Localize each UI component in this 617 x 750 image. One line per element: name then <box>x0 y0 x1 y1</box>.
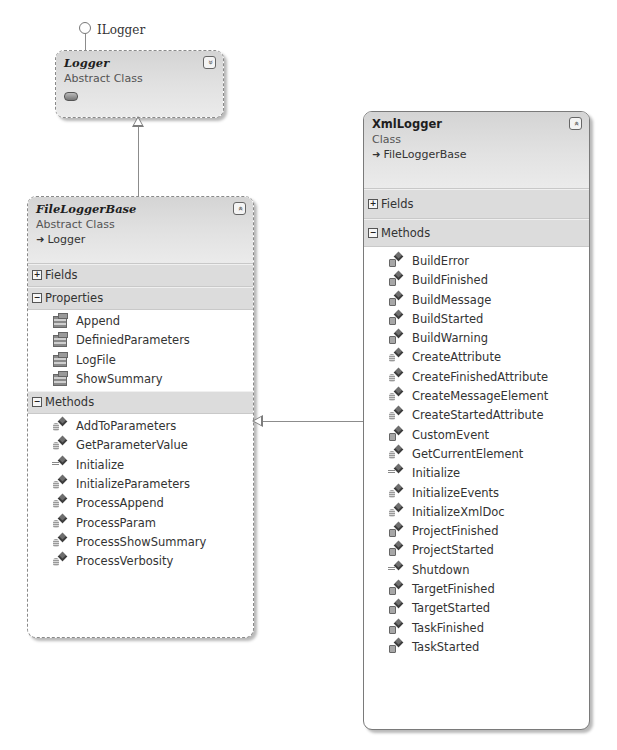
method-item[interactable]: ProjectStarted <box>364 541 589 560</box>
private-method-icon <box>52 515 68 529</box>
protected-method-icon <box>388 272 404 286</box>
method-item[interactable]: AddToParameters <box>28 417 253 436</box>
private-method-icon <box>52 437 68 451</box>
protected-method-icon <box>388 292 404 306</box>
method-item[interactable]: GetCurrentElement <box>364 445 589 464</box>
section-fields[interactable]: +Fields <box>364 189 589 219</box>
interface-label: ILogger <box>97 23 145 37</box>
private-method-icon <box>388 485 404 499</box>
inheritance-connector <box>138 127 139 196</box>
class-name: FileLoggerBase <box>36 201 245 217</box>
method-item[interactable]: Initialize <box>28 456 253 475</box>
method-item[interactable]: TaskStarted <box>364 638 589 657</box>
method-item[interactable]: Shutdown <box>364 561 589 580</box>
private-method-icon <box>388 369 404 383</box>
section-label: Fields <box>381 197 414 211</box>
method-item[interactable]: CreateAttribute <box>364 348 589 367</box>
class-kind: Abstract Class <box>64 71 215 86</box>
method-item[interactable]: CreateStartedAttribute <box>364 406 589 425</box>
class-name: XmlLogger <box>372 116 581 132</box>
section-methods[interactable]: −Methods <box>364 219 589 247</box>
class-kind: Class <box>372 132 581 147</box>
method-item[interactable]: CustomEvent <box>364 426 589 445</box>
private-method-icon <box>52 553 68 567</box>
protected-method-icon <box>388 600 404 614</box>
class-xml-logger[interactable]: XmlLogger Class ➜FileLoggerBase « +Field… <box>363 111 590 730</box>
method-item[interactable]: TargetFinished <box>364 580 589 599</box>
protected-method-icon <box>388 253 404 267</box>
private-method-icon <box>52 495 68 509</box>
property-item[interactable]: DefiniedParameters <box>28 331 253 350</box>
method-item[interactable]: BuildWarning <box>364 329 589 348</box>
protected-method-icon <box>388 311 404 325</box>
protected-method-icon <box>388 639 404 653</box>
method-item[interactable]: BuildMessage <box>364 291 589 310</box>
method-item[interactable]: GetParameterValue <box>28 436 253 455</box>
private-method-icon <box>388 407 404 421</box>
private-method-icon <box>388 388 404 402</box>
protected-method-icon <box>388 542 404 556</box>
section-fields[interactable]: +Fields <box>28 264 253 287</box>
base-class: ➜Logger <box>36 232 245 248</box>
interface-connector <box>85 34 86 51</box>
method-item[interactable]: InitializeParameters <box>28 475 253 494</box>
public-method-icon <box>52 457 68 471</box>
inherits-arrow-icon: ➜ <box>36 234 44 245</box>
section-label: Fields <box>45 268 78 282</box>
method-item[interactable]: CreateMessageElement <box>364 387 589 406</box>
collapse-toggle-icon[interactable]: « <box>569 117 582 130</box>
method-item[interactable]: ProcessShowSummary <box>28 533 253 552</box>
method-item[interactable]: BuildError <box>364 252 589 271</box>
section-properties[interactable]: −Properties <box>28 287 253 310</box>
property-icon <box>52 371 68 385</box>
base-class-name: Logger <box>47 233 85 246</box>
method-item[interactable]: ProcessParam <box>28 514 253 533</box>
method-item[interactable]: ProcessAppend <box>28 494 253 513</box>
protected-method-icon <box>388 581 404 595</box>
public-method-icon <box>388 562 404 576</box>
section-label: Methods <box>381 226 430 240</box>
property-icon <box>52 313 68 327</box>
inherits-arrow-icon: ➜ <box>372 149 380 160</box>
collapse-section-icon[interactable]: − <box>368 228 378 238</box>
private-method-icon <box>388 446 404 460</box>
expand-section-icon[interactable]: + <box>368 199 378 209</box>
method-item[interactable]: CreateFinishedAttribute <box>364 368 589 387</box>
inheritance-arrow-icon <box>252 415 263 427</box>
method-item[interactable]: InitializeXmlDoc <box>364 503 589 522</box>
method-item[interactable]: ProcessVerbosity <box>28 552 253 571</box>
method-item[interactable]: TaskFinished <box>364 619 589 638</box>
public-method-icon <box>388 465 404 479</box>
method-item[interactable]: TargetStarted <box>364 599 589 618</box>
inheritance-connector <box>263 421 363 422</box>
collapse-toggle-icon[interactable]: « <box>233 202 246 215</box>
expand-toggle-icon[interactable]: » <box>203 56 216 69</box>
method-item[interactable]: Initialize <box>364 464 589 483</box>
method-item[interactable]: InitializeEvents <box>364 484 589 503</box>
collapse-section-icon[interactable]: − <box>32 293 42 303</box>
private-method-icon <box>52 418 68 432</box>
collapse-section-icon[interactable]: − <box>32 397 42 407</box>
method-item[interactable]: BuildStarted <box>364 310 589 329</box>
protected-method-icon <box>388 427 404 441</box>
private-method-icon <box>388 349 404 363</box>
protected-method-icon <box>388 620 404 634</box>
property-icon <box>52 332 68 346</box>
method-item[interactable]: ProjectFinished <box>364 522 589 541</box>
class-kind: Abstract Class <box>36 217 245 232</box>
expand-section-icon[interactable]: + <box>32 270 42 280</box>
property-item[interactable]: ShowSummary <box>28 370 253 389</box>
private-method-icon <box>388 504 404 518</box>
base-class: ➜FileLoggerBase <box>372 147 581 163</box>
class-file-logger-base[interactable]: FileLoggerBase Abstract Class ➜Logger « … <box>27 196 254 638</box>
section-label: Properties <box>45 291 103 305</box>
inheritance-arrow-icon <box>132 116 144 127</box>
interface-lollipop-icon <box>79 22 91 34</box>
class-logger[interactable]: Logger Abstract Class » <box>55 50 224 118</box>
property-item[interactable]: Append <box>28 312 253 331</box>
section-methods[interactable]: −Methods <box>28 391 253 414</box>
method-item[interactable]: BuildFinished <box>364 271 589 290</box>
property-item[interactable]: LogFile <box>28 351 253 370</box>
private-method-icon <box>52 476 68 490</box>
protected-method-icon <box>388 330 404 344</box>
